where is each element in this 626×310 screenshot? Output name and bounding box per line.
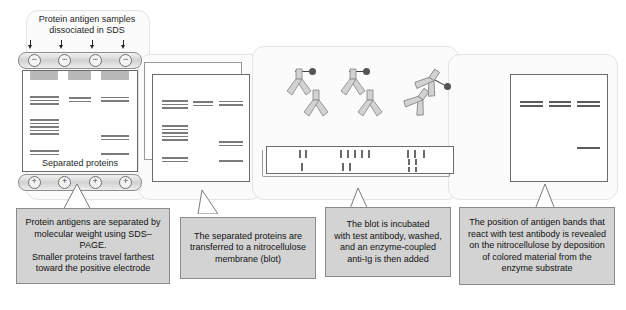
- protein-band: [30, 96, 59, 98]
- transferred-band: [193, 105, 213, 107]
- blot-band: [423, 150, 425, 158]
- blot-band: [301, 163, 303, 171]
- gel-well: [68, 71, 91, 80]
- positive-electrode: +: [28, 176, 41, 189]
- blot-band: [408, 167, 410, 172]
- antibody-glyph: [298, 88, 332, 118]
- protein-band: [69, 97, 91, 99]
- transferred-band: [219, 104, 243, 106]
- antibody-glyph: [352, 88, 386, 118]
- negative-electrode: −: [89, 54, 102, 67]
- protein-band: [101, 139, 129, 141]
- transferred-band: [162, 161, 188, 163]
- blot-band: [407, 150, 409, 158]
- negative-electrode-sign: −: [90, 55, 101, 64]
- transferred-band: [162, 104, 188, 106]
- sds-page-gel: Separated proteins: [22, 70, 138, 172]
- transferred-band: [162, 157, 188, 159]
- transferred-band: [162, 139, 188, 141]
- caption-box-2: The separated proteins are transferred t…: [180, 217, 316, 279]
- transferred-band: [219, 145, 243, 147]
- protein-band: [30, 100, 59, 102]
- reactive-band: [520, 101, 543, 103]
- transferred-band: [219, 141, 243, 143]
- protein-band: [30, 123, 59, 125]
- sample-load-arrow: [89, 40, 96, 50]
- transferred-band: [162, 132, 188, 134]
- blot-band: [342, 163, 344, 171]
- blot-band: [368, 150, 370, 158]
- blot-band: [361, 150, 363, 158]
- negative-electrode: −: [119, 54, 132, 67]
- transferred-band: [162, 100, 188, 102]
- gel-well: [101, 71, 129, 80]
- transferred-band: [219, 160, 243, 162]
- negative-electrode-sign: −: [29, 55, 40, 64]
- protein-band: [101, 97, 129, 99]
- transferred-band: [162, 125, 188, 127]
- protein-band: [30, 133, 59, 135]
- reactive-band: [549, 105, 571, 107]
- reactive-band: [577, 105, 600, 107]
- blot-band: [299, 150, 301, 158]
- negative-electrode-bar: − − − −: [18, 52, 142, 69]
- protein-band: [30, 119, 59, 121]
- figure-canvas: Protein antigen samples dissociated in S…: [0, 0, 626, 310]
- incubated-blot-strip: [266, 146, 454, 174]
- transferred-band: [193, 101, 213, 103]
- negative-electrode: −: [58, 54, 71, 67]
- reactive-band: [520, 105, 543, 107]
- developed-blot: [510, 74, 608, 182]
- blot-band: [354, 150, 356, 158]
- blot-band: [415, 167, 417, 172]
- protein-band: [30, 150, 59, 152]
- caption-box-4: The position of antigen bands that react…: [459, 207, 615, 285]
- positive-electrode-sign: +: [29, 177, 40, 186]
- transferred-band: [162, 129, 188, 131]
- positive-electrode: +: [119, 176, 132, 189]
- sample-load-arrow: [27, 40, 34, 50]
- nitrocellulose-membrane: [152, 74, 250, 182]
- test-antibody: [298, 88, 332, 118]
- blot-band: [408, 159, 410, 165]
- protein-band: [101, 135, 129, 137]
- protein-band: [30, 154, 59, 156]
- negative-electrode: −: [28, 54, 41, 67]
- reactive-band: [549, 101, 571, 103]
- caption-box-3: The blot is incubated with test antibody…: [325, 207, 451, 277]
- protein-band: [69, 101, 91, 103]
- panel-1-inner-label: Separated proteins: [23, 158, 137, 169]
- test-antibody: [352, 88, 386, 118]
- blot-band: [415, 159, 417, 165]
- blot-band: [340, 150, 342, 158]
- caption-pointer-2: [196, 190, 222, 214]
- negative-electrode-sign: −: [59, 55, 70, 64]
- sample-load-arrow: [58, 40, 65, 50]
- protein-band: [30, 130, 59, 132]
- transferred-band: [162, 136, 188, 138]
- sample-load-arrow: [120, 40, 127, 50]
- transferred-band: [162, 107, 188, 109]
- reactive-band: [577, 147, 600, 149]
- negative-electrode-sign: −: [120, 55, 131, 64]
- blot-band: [349, 163, 351, 171]
- protein-band: [30, 103, 59, 105]
- blot-band: [347, 150, 349, 158]
- panel-1-top-label: Protein antigen samples dissociated in S…: [30, 14, 144, 36]
- blot-band: [414, 150, 416, 158]
- blot-band: [305, 150, 307, 158]
- transferred-band: [219, 101, 243, 103]
- protein-band: [101, 100, 129, 102]
- protein-band: [101, 153, 129, 155]
- caption-box-1: Protein antigens are separated by molecu…: [16, 208, 170, 284]
- positive-electrode-sign: +: [120, 177, 131, 186]
- protein-band: [30, 126, 59, 128]
- gel-well: [30, 71, 58, 80]
- reactive-band: [577, 101, 600, 103]
